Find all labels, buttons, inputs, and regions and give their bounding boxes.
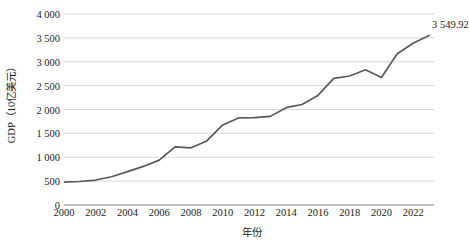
- x-axis-tick-label: 2018: [339, 206, 360, 219]
- series-line-gdp: [64, 35, 429, 182]
- x-axis-tick-label: 2000: [54, 206, 75, 219]
- x-axis-tick-label: 2020: [371, 206, 392, 219]
- x-axis-title: 年份: [64, 224, 439, 239]
- x-axis-tick-labels: 2000200220042006200820102012201420162018…: [64, 206, 439, 222]
- x-axis-tick-label: 2004: [117, 206, 138, 219]
- y-axis-tick-label: 1 500: [16, 128, 60, 139]
- x-axis-tick-label: 2012: [244, 206, 265, 219]
- gridlines: [64, 14, 434, 181]
- x-axis-tick-label: 2008: [180, 206, 201, 219]
- endpoint-value-label: 3 549.92: [432, 19, 469, 31]
- y-axis-tick-label: 500: [16, 176, 60, 187]
- y-axis-tick-label: 3 000: [16, 56, 60, 67]
- x-axis-tick-label: 2002: [85, 206, 106, 219]
- x-axis-tick-label: 2014: [276, 206, 297, 219]
- x-axis-tick-label: 2006: [149, 206, 170, 219]
- y-axis-tick-label: 2 000: [16, 104, 60, 115]
- series-polyline: [64, 35, 429, 182]
- x-axis-tick-label: 2016: [307, 206, 328, 219]
- x-axis-tick-label: 2010: [212, 206, 233, 219]
- y-axis-tick-label: 4 000: [16, 9, 60, 20]
- y-axis-tick-label: 3 500: [16, 32, 60, 43]
- y-axis-tick-label: 1 000: [16, 152, 60, 163]
- x-axis-tick-label: 2022: [403, 206, 424, 219]
- y-axis-tick-label: 2 500: [16, 80, 60, 91]
